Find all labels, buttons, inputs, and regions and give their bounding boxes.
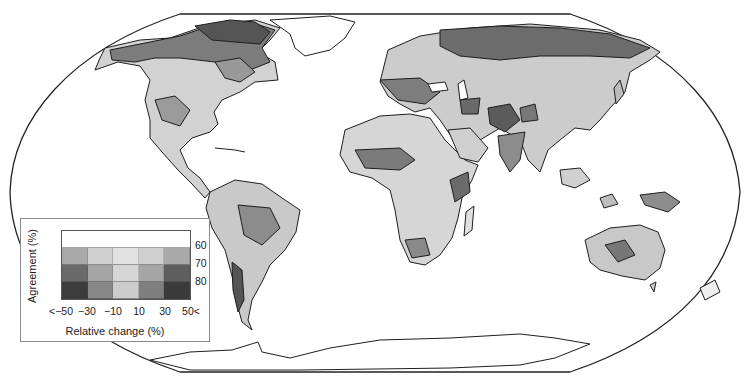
legend-xtick: 10 [133,305,145,317]
legend-cell [139,282,165,299]
legend-cell [164,231,190,248]
legend-ytick-60: 60 [195,239,207,251]
legend-cell [113,231,139,248]
legend-xtick: 50< [182,305,200,317]
legend: Agreement (%) 60 70 80 <−50 −30 −10 10 3… [20,218,210,342]
legend-cell [164,282,190,299]
legend-xtick: <−50 [49,305,73,317]
legend-xtick: −10 [104,305,122,317]
legend-grid [61,230,191,300]
legend-cell [62,265,88,282]
legend-cell [113,265,139,282]
legend-cell [164,248,190,265]
legend-cell [88,248,114,265]
legend-cell [62,248,88,265]
legend-xtick: −30 [78,305,96,317]
legend-cell [113,282,139,299]
legend-cell [62,231,88,248]
legend-cell [139,231,165,248]
legend-ytick-70: 70 [195,257,207,269]
legend-xtick: 30 [159,305,171,317]
legend-xlabel: Relative change (%) [21,325,209,337]
legend-cell [88,265,114,282]
legend-cell [164,265,190,282]
legend-cell [62,282,88,299]
legend-ytick-80: 80 [195,275,207,287]
legend-cell [139,265,165,282]
legend-ylabel: Agreement (%) [24,231,40,301]
legend-cell [139,248,165,265]
legend-cell [88,231,114,248]
legend-cell [88,282,114,299]
legend-cell [113,248,139,265]
